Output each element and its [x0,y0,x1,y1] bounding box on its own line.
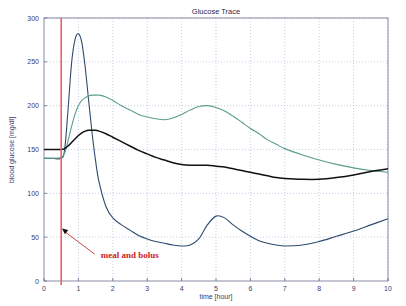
glucose-trace-chart: meal and bolus 0123456789100501001502002… [0,0,406,306]
x-tick-label: 4 [180,285,184,292]
x-tick-label: 1 [76,285,80,292]
y-tick-label: 150 [27,146,39,153]
chart-title: Glucose Trace [192,7,240,16]
x-tick-label: 3 [145,285,149,292]
y-tick-label: 250 [27,58,39,65]
x-axis-label: time [hour] [199,293,232,301]
x-tick-label: 6 [248,285,252,292]
x-tick-label: 0 [42,285,46,292]
x-tick-label: 9 [352,285,356,292]
y-axis-label: blood glucose [mg/dl] [8,117,16,183]
x-tick-label: 7 [283,285,287,292]
y-tick-label: 0 [35,278,39,285]
y-tick-label: 100 [27,190,39,197]
x-tick-label: 2 [111,285,115,292]
x-tick-label: 10 [384,285,392,292]
glucose-trace-figure: meal and bolus 0123456789100501001502002… [0,0,406,306]
x-tick-label: 8 [317,285,321,292]
meal-bolus-annotation-label: meal and bolus [101,250,160,260]
y-tick-label: 50 [31,234,39,241]
y-tick-label: 300 [27,15,39,22]
x-tick-label: 5 [214,285,218,292]
y-tick-label: 200 [27,102,39,109]
